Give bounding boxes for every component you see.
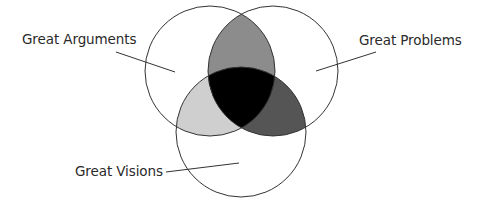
leader-line-visions (166, 163, 239, 172)
label-great-problems: Great Problems (359, 34, 462, 48)
label-great-visions: Great Visions (75, 165, 163, 179)
venn-diagram: Great Arguments Great Problems Great Vis… (0, 0, 479, 207)
leader-line-problems (316, 52, 376, 71)
label-great-arguments: Great Arguments (22, 33, 136, 47)
